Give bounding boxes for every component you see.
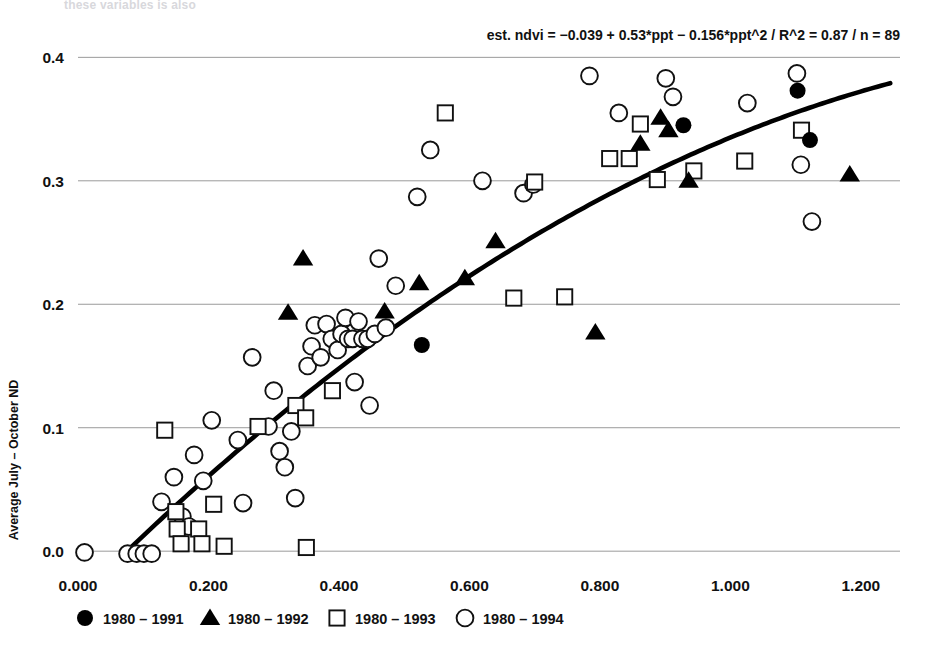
y-tick-label: 0.1 [42, 420, 64, 437]
data-point [650, 172, 665, 187]
data-point [195, 472, 212, 489]
legend-label: 1980 – 1992 [228, 611, 309, 627]
figure-scatter-plot: these variables is also 0.00.10.20.30.4 … [0, 0, 928, 652]
data-point [235, 495, 252, 512]
data-point [630, 134, 650, 151]
x-tick-label: 0.600 [450, 577, 489, 594]
data-point [170, 521, 185, 536]
data-point [361, 397, 378, 414]
data-point [370, 250, 387, 267]
legend-label: 1980 – 1991 [103, 611, 184, 627]
fit-curve-group [126, 83, 890, 552]
data-point [485, 232, 505, 249]
data-point [409, 188, 426, 205]
series-markers-1980-1991 [414, 83, 818, 353]
x-tick-label: 1.000 [711, 577, 750, 594]
regression-equation-annotation: est. ndvi = −0.039 + 0.53*ppt − 0.156*pp… [487, 27, 900, 43]
data-point [802, 132, 818, 148]
cropped-caption-text: these variables is also [64, 0, 196, 12]
data-point [409, 274, 429, 291]
data-point [557, 289, 572, 304]
y-axis-title: Average July – October ND [7, 380, 21, 541]
data-point [299, 540, 314, 555]
data-point [76, 544, 93, 561]
data-point [166, 469, 183, 486]
x-tick-label: 0.200 [189, 577, 228, 594]
x-tick-label: 1.200 [841, 577, 880, 594]
data-point [250, 419, 265, 434]
legend-label: 1980 – 1993 [355, 611, 436, 627]
data-point [287, 490, 304, 507]
y-axis-tick-labels: 0.00.10.20.30.4 [42, 49, 64, 560]
data-point [622, 151, 637, 166]
data-point [276, 459, 293, 476]
data-point [378, 319, 395, 336]
data-point [789, 65, 806, 82]
data-point [527, 174, 542, 189]
data-point [665, 88, 682, 105]
x-tick-label: 0.400 [320, 577, 359, 594]
data-point [506, 290, 521, 305]
data-point [675, 117, 691, 133]
legend-marker-open-circle [457, 610, 474, 627]
data-point [633, 116, 648, 131]
data-point [191, 521, 206, 536]
data-point [350, 313, 367, 330]
data-point [168, 504, 183, 519]
data-point [804, 213, 821, 230]
data-point [346, 374, 363, 391]
legend-marker-filled-circle [77, 610, 93, 626]
quadratic-fit-curve [126, 83, 890, 552]
data-point [194, 536, 209, 551]
data-point [422, 142, 439, 159]
y-tick-label: 0.2 [42, 296, 64, 313]
data-point [737, 153, 752, 168]
data-point [325, 383, 340, 398]
data-point [312, 349, 329, 366]
data-point [414, 337, 430, 353]
y-tick-label: 0.3 [42, 173, 64, 190]
data-point [438, 105, 453, 120]
data-point [203, 412, 220, 429]
data-point [271, 443, 288, 460]
data-point [278, 303, 298, 320]
data-point [143, 545, 160, 562]
data-point [585, 323, 605, 340]
legend: 1980 – 19911980 – 19921980 – 19931980 – … [77, 608, 564, 627]
data-point [474, 172, 491, 189]
x-tick-label: 0.800 [581, 577, 620, 594]
data-point [739, 95, 756, 112]
data-point [840, 165, 860, 182]
data-point [206, 497, 221, 512]
legend-marker-open-square [329, 610, 344, 625]
data-point [293, 249, 313, 266]
data-point [387, 277, 404, 294]
series-markers-1980-1994 [76, 65, 820, 562]
data-point [217, 539, 232, 554]
chart-canvas: 0.00.10.20.30.4 0.0000.2000.4000.6000.80… [0, 0, 928, 652]
data-point [229, 432, 246, 449]
data-point [186, 446, 203, 463]
x-tick-label: 0.000 [59, 577, 98, 594]
data-point [602, 151, 617, 166]
data-point [265, 382, 282, 399]
y-tick-label: 0.0 [42, 543, 64, 560]
data-point [157, 423, 172, 438]
legend-label: 1980 – 1994 [483, 611, 564, 627]
data-point [610, 105, 627, 122]
data-point [173, 536, 188, 551]
data-point [657, 70, 674, 87]
data-point [792, 156, 809, 173]
data-point [790, 83, 806, 99]
data-point [298, 410, 313, 425]
x-axis-tick-labels: 0.0000.2000.4000.6000.8001.0001.200 [59, 577, 881, 594]
data-point [244, 349, 261, 366]
y-tick-label: 0.4 [42, 49, 64, 66]
data-point [581, 67, 598, 84]
legend-marker-filled-triangle [200, 608, 220, 625]
